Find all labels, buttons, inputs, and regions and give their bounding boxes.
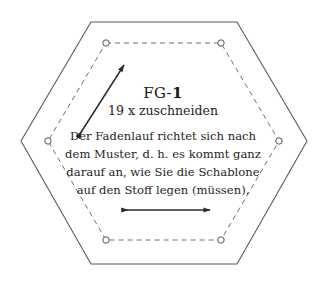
corner-marker-left	[45, 138, 51, 144]
corner-marker-right	[276, 138, 282, 144]
corner-marker-top-left	[103, 40, 109, 46]
corner-marker-top-right	[218, 40, 224, 46]
pattern-drawing	[0, 0, 326, 282]
corner-marker-bottom-right	[218, 237, 224, 243]
corner-marker-bottom-left	[103, 237, 109, 243]
pattern-sheet: FG-1 19 x zuschneiden Der Fadenlauf rich…	[0, 0, 326, 282]
cutting-line-hexagon	[21, 22, 307, 264]
